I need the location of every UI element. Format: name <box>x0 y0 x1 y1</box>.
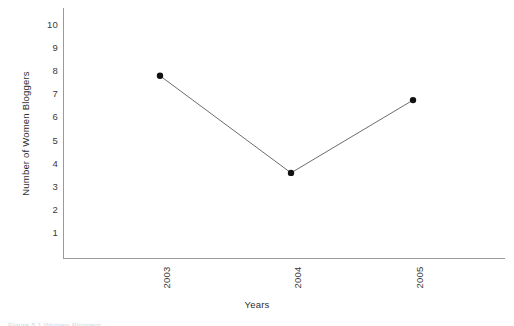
figure-caption: Figure 5.1 Women Bloggers <box>8 318 248 326</box>
x-tick-label-text: 2005 <box>401 267 426 289</box>
line-chart-figure: Number of Women Bloggers 10987654321 200… <box>0 0 514 326</box>
x-tick-label: 2005 <box>383 265 443 290</box>
x-tick-label: 2003 <box>130 265 190 290</box>
x-tick-label-text: 2004 <box>279 267 304 289</box>
x-axis-title: Years <box>0 299 514 310</box>
x-tick-label: 2004 <box>261 265 321 290</box>
x-axis-tick-labels: 200320042005 <box>0 0 514 326</box>
x-tick-label-text: 2003 <box>148 267 173 289</box>
